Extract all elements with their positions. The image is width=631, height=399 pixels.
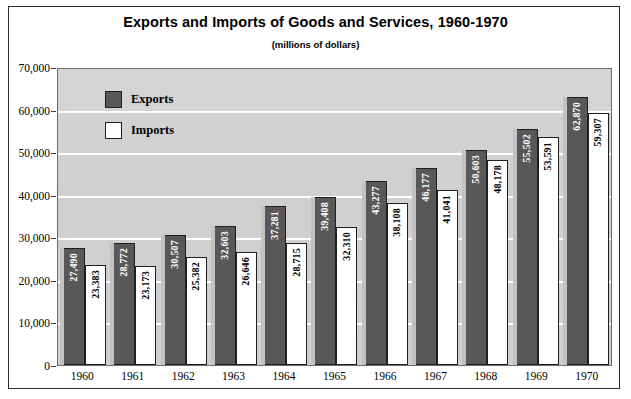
bar-value-label: 55,502 — [522, 134, 532, 163]
x-axis-label-1968: 1968 — [461, 370, 511, 394]
bar-value-label: 30,507 — [170, 240, 180, 269]
legend-label: Exports — [131, 92, 173, 107]
bar-value-label: 37,281 — [270, 211, 280, 240]
x-axis-label-1966: 1966 — [360, 370, 410, 394]
bar-value-label: 27,490 — [69, 253, 79, 282]
bar-value-label: 38,108 — [392, 208, 402, 237]
x-axis-label-1961: 1961 — [107, 370, 157, 394]
y-axis-tick-mark — [51, 111, 56, 112]
bar-value-label: 28,772 — [119, 248, 129, 277]
bar-exports-1960[interactable]: 27,490 — [64, 248, 85, 365]
x-axis-label-1962: 1962 — [158, 370, 208, 394]
bar-exports-1961[interactable]: 28,772 — [114, 243, 135, 365]
bar-exports-1969[interactable]: 55,502 — [517, 129, 538, 365]
bar-value-label: 50,603 — [471, 155, 481, 184]
bar-imports-1962[interactable]: 25,382 — [186, 257, 207, 365]
bar-exports-1963[interactable]: 32,603 — [215, 226, 236, 365]
bar-value-label: 43,277 — [371, 186, 381, 215]
legend-swatch-imports — [105, 122, 122, 139]
bar-exports-1965[interactable]: 39,408 — [315, 197, 336, 365]
y-axis-tick-mark — [51, 323, 56, 324]
bar-group: 39,40832,310 — [309, 69, 359, 365]
plot-area: 27,49023,38328,77223,17330,50725,38232,6… — [57, 68, 612, 366]
bar-imports-1970[interactable]: 59,307 — [588, 113, 609, 365]
y-axis-tick-mark — [51, 281, 56, 282]
bar-imports-1968[interactable]: 48,178 — [487, 160, 508, 365]
chart-title: Exports and Imports of Goods and Service… — [0, 14, 631, 30]
bar-imports-1969[interactable]: 53,591 — [538, 137, 559, 365]
y-axis: 70,00060,00050,00040,00030,00020,00010,0… — [0, 60, 57, 376]
y-axis-tick-mark — [51, 366, 56, 367]
bar-group: 32,60326,646 — [209, 69, 259, 365]
bar-group: 46,17741,041 — [410, 69, 460, 365]
chart-legend: ExportsImports — [105, 91, 174, 153]
y-axis-tick-label: 40,000 — [18, 190, 50, 202]
bar-imports-1963[interactable]: 26,646 — [236, 252, 257, 365]
y-axis-tick-mark — [51, 153, 56, 154]
y-axis-tick-label: 10,000 — [18, 317, 50, 329]
y-axis-tick-label: 0 — [44, 360, 50, 372]
bar-value-label: 28,715 — [292, 248, 302, 277]
bar-value-label: 25,382 — [191, 262, 201, 291]
bar-group: 43,27738,108 — [360, 69, 410, 365]
bar-value-label: 53,591 — [543, 142, 553, 171]
bar-value-label: 32,603 — [220, 231, 230, 260]
bar-value-label: 48,178 — [493, 165, 503, 194]
x-axis: 1960196119621963196419651966196719681969… — [57, 370, 612, 394]
y-axis-tick-mark — [51, 196, 56, 197]
bar-value-label: 41,041 — [442, 195, 452, 224]
bar-exports-1967[interactable]: 46,177 — [416, 168, 437, 365]
bar-value-label: 46,177 — [421, 173, 431, 202]
y-axis-tick-label: 70,000 — [18, 62, 50, 74]
bar-value-label: 62,870 — [572, 102, 582, 131]
bar-imports-1965[interactable]: 32,310 — [336, 227, 357, 365]
x-axis-label-1965: 1965 — [309, 370, 359, 394]
bar-value-label: 39,408 — [320, 202, 330, 231]
bar-value-label: 23,383 — [91, 270, 101, 299]
bar-exports-1964[interactable]: 37,281 — [265, 206, 286, 365]
bar-group: 50,60348,178 — [460, 69, 510, 365]
legend-label: Imports — [131, 123, 174, 138]
y-axis-tick-mark — [51, 238, 56, 239]
y-axis-tick-label: 50,000 — [18, 147, 50, 159]
legend-item-exports: Exports — [105, 91, 174, 108]
x-axis-label-1969: 1969 — [511, 370, 561, 394]
bar-value-label: 26,646 — [241, 257, 251, 286]
y-axis-tick-label: 30,000 — [18, 232, 50, 244]
bar-group: 62,87059,307 — [561, 69, 611, 365]
x-axis-label-1970: 1970 — [562, 370, 612, 394]
bar-value-label: 23,173 — [141, 271, 151, 300]
legend-swatch-exports — [105, 91, 122, 108]
y-axis-tick-label: 60,000 — [18, 105, 50, 117]
x-axis-label-1964: 1964 — [259, 370, 309, 394]
chart-page: Exports and Imports of Goods and Service… — [0, 0, 631, 399]
bar-imports-1964[interactable]: 28,715 — [286, 243, 307, 365]
bar-exports-1966[interactable]: 43,277 — [366, 181, 387, 365]
bar-group: 27,49023,383 — [58, 69, 108, 365]
bar-value-label: 59,307 — [593, 118, 603, 147]
bar-imports-1960[interactable]: 23,383 — [85, 265, 106, 365]
legend-item-imports: Imports — [105, 122, 174, 139]
bar-imports-1966[interactable]: 38,108 — [387, 203, 408, 365]
chart-subtitle: (millions of dollars) — [0, 39, 631, 50]
bar-group: 55,50253,591 — [510, 69, 560, 365]
bar-imports-1961[interactable]: 23,173 — [135, 266, 156, 365]
bar-exports-1968[interactable]: 50,603 — [466, 150, 487, 365]
bar-exports-1962[interactable]: 30,507 — [165, 235, 186, 365]
y-axis-tick-mark — [51, 68, 56, 69]
x-axis-label-1963: 1963 — [208, 370, 258, 394]
bar-exports-1970[interactable]: 62,870 — [567, 97, 588, 365]
bar-value-label: 32,310 — [342, 232, 352, 261]
x-axis-label-1960: 1960 — [57, 370, 107, 394]
y-axis-tick-label: 20,000 — [18, 275, 50, 287]
bar-imports-1967[interactable]: 41,041 — [437, 190, 458, 365]
bar-group: 37,28128,715 — [259, 69, 309, 365]
x-axis-label-1967: 1967 — [410, 370, 460, 394]
